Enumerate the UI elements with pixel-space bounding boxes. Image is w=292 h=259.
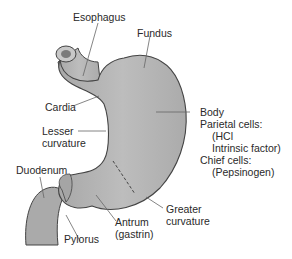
label-body: Body [200,106,224,118]
label-hcl: (HCl [212,130,233,142]
label-chief-cells: Chief cells: [200,154,251,166]
label-pepsinogen: (Pepsinogen) [212,166,274,178]
label-parietal-cells: Parietal cells: [200,118,262,130]
label-greater-curvature-1: Greater [166,203,202,215]
label-gastrin: (gastrin) [115,228,154,240]
label-intrinsic-factor: Intrinsic factor) [212,142,281,154]
label-greater-curvature-2: curvature [166,215,210,227]
label-lesser-curvature-2: curvature [42,137,86,149]
label-fundus: Fundus [137,27,172,39]
label-pylorus: Pylorus [64,233,99,245]
label-antrum: Antrum [115,216,149,228]
label-cardia: Cardia [45,101,76,113]
esophagus-lumen [61,50,71,58]
label-esophagus: Esophagus [73,11,126,23]
label-lesser-curvature-1: Lesser [42,125,74,137]
label-duodenum: Duodenum [16,164,67,176]
